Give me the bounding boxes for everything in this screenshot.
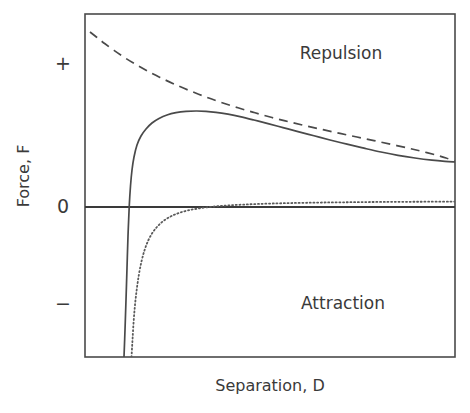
y-axis-title: Force, F	[14, 145, 33, 208]
chart-canvas: + 0 − Force, F Separation, D Repulsion A…	[0, 0, 470, 413]
annotation-attraction: Attraction	[301, 293, 385, 313]
plot-frame	[85, 14, 455, 357]
y-tick-label-plus: +	[55, 52, 71, 74]
x-axis-title: Separation, D	[215, 376, 324, 395]
annotation-repulsion: Repulsion	[300, 43, 383, 63]
series-total-force-solid	[124, 111, 455, 357]
y-tick-label-zero: 0	[57, 195, 69, 217]
y-tick-label-minus: −	[55, 292, 71, 314]
series-group	[90, 32, 455, 357]
series-electrostatic-repulsion-dashed	[90, 32, 455, 161]
force-separation-figure: + 0 − Force, F Separation, D Repulsion A…	[0, 0, 470, 413]
series-vanderwaals-attraction-dotted	[132, 202, 456, 357]
